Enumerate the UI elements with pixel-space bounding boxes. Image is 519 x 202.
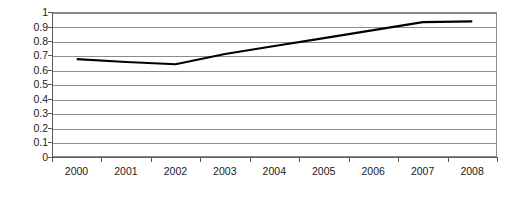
x-tick-label: 2003: [200, 165, 249, 177]
x-tick-mark: [349, 157, 350, 162]
x-tick-label: 2006: [349, 165, 398, 177]
x-tick-mark: [299, 157, 300, 162]
x-tick-mark: [497, 157, 498, 162]
x-tick-label: 2002: [151, 165, 200, 177]
x-tick-label: 2007: [398, 165, 447, 177]
x-tick-label: 2005: [299, 165, 348, 177]
x-tick-mark: [250, 157, 251, 162]
line-chart: 1 0.9 0.8 0.7 0.6 0.5 0.4 0.3 0.2 0.1 0 …: [0, 0, 519, 202]
series-line-chart: [52, 12, 497, 157]
x-tick-label: 2008: [448, 165, 497, 177]
x-tick-label: 2001: [101, 165, 150, 177]
x-tick-label: 2004: [250, 165, 299, 177]
x-tick-mark: [101, 157, 102, 162]
x-tick-mark: [52, 157, 53, 162]
x-tick-label: 2000: [52, 165, 101, 177]
series-line: [77, 21, 473, 64]
x-tick-mark: [151, 157, 152, 162]
x-tick-mark: [398, 157, 399, 162]
x-tick-mark: [448, 157, 449, 162]
x-tick-mark: [200, 157, 201, 162]
